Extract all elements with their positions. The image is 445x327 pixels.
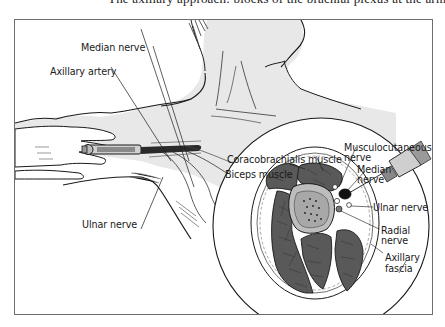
label-axillary-artery: Axillary artery [50,67,116,77]
label-median-nerve: Median nerve [81,43,145,53]
illustration-frame: Median nerve Axillary artery Ulnar nerve… [14,19,433,315]
label-ulnar-nerve-inset: Ulnar nerve [373,203,428,213]
label-ulnar-nerve: Ulnar nerve [82,220,137,230]
label-biceps-muscle: Biceps muscle [225,170,293,180]
label-coracobrachialis-muscle: Coracobrachialis muscle [227,155,342,165]
label-musculocutaneous-nerve-line2: nerve [344,153,371,163]
label-axillary-fascia-line2: fascia [385,264,412,274]
cropped-caption: The axillary approach: blocks of the bra… [0,0,445,6]
label-median-nerve-inset-line2: nerve [357,175,384,185]
label-axillary-fascia-line1: Axillary [385,253,420,263]
caption-fragment: The axillary approach: blocks of the bra… [108,0,445,6]
label-radial-nerve-line2: nerve [381,236,408,246]
